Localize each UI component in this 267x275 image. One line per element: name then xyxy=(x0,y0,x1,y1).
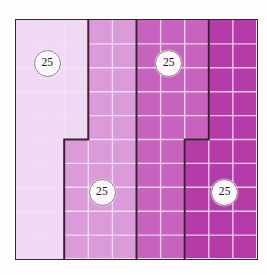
region-1-part-2 xyxy=(16,139,64,258)
figure-canvas: 25252525 xyxy=(0,0,267,275)
region-3-part-1 xyxy=(136,20,208,139)
region-3-part-2 xyxy=(136,139,184,258)
region-1-part-1 xyxy=(16,20,88,139)
grid-frame: 25252525 xyxy=(15,19,258,260)
region-4-part-1 xyxy=(208,20,256,139)
region-count-badge-2: 25 xyxy=(89,179,116,206)
region-count-badge-3: 25 xyxy=(155,50,182,77)
region-count-badge-1: 25 xyxy=(34,50,61,77)
region-count-badge-4: 25 xyxy=(211,179,238,206)
region-2-part-1 xyxy=(88,20,136,139)
